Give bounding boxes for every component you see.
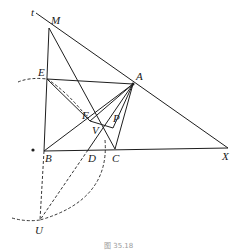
segment-M-B <box>44 28 49 151</box>
dashed-arc-upper <box>18 78 47 82</box>
label-X: X <box>221 150 230 162</box>
dashed-arc-lower <box>12 218 40 221</box>
segment-E-A <box>47 79 133 84</box>
label-M: M <box>50 14 61 26</box>
label-P: P <box>112 112 120 124</box>
figure-caption: 图 35.18 <box>104 242 133 250</box>
label-C: C <box>112 152 120 164</box>
label-U: U <box>35 224 44 236</box>
dot-marker <box>31 148 34 151</box>
label-B: B <box>45 152 52 164</box>
solid-lines <box>36 13 228 151</box>
point-A <box>132 83 135 86</box>
label-A: A <box>135 70 143 82</box>
dashed-lines <box>12 78 105 220</box>
label-t: t <box>31 6 35 18</box>
geometry-figure: t M E A F P V B D C X U 图 35.18 <box>0 0 238 251</box>
label-E: E <box>37 66 45 78</box>
dashed-B-U <box>40 151 44 220</box>
label-F: F <box>81 109 89 121</box>
label-D: D <box>87 152 96 164</box>
segment-B-X <box>44 148 228 151</box>
segment-M-C <box>49 28 115 149</box>
